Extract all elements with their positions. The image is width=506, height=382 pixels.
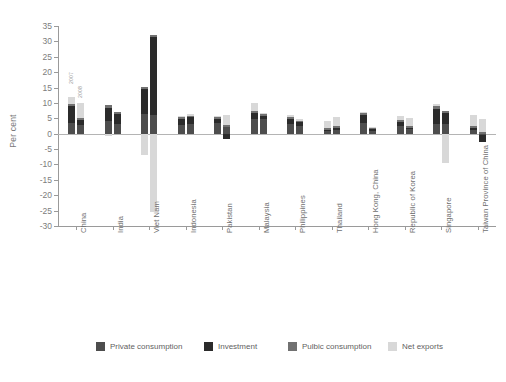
legend-item[interactable]: Private consumption: [96, 342, 182, 351]
bar-segment: [214, 116, 221, 117]
bar-group: [241, 26, 278, 226]
bar-2007: [433, 26, 440, 226]
bar-2007: [251, 26, 258, 226]
x-category-label: Thailand: [335, 203, 344, 233]
bar-2008: [187, 26, 194, 226]
bar-segment: [406, 118, 413, 126]
year-annotation: 2008: [77, 86, 83, 98]
x-tick: [259, 226, 260, 230]
bar-2008: [77, 26, 84, 226]
y-tick-label: 35: [43, 22, 52, 31]
bar-segment: [251, 103, 258, 111]
bar-segment: [68, 123, 75, 133]
bar-2007: [287, 26, 294, 226]
y-tick-label: 10: [43, 99, 52, 108]
bar-group: [131, 26, 168, 226]
bar-segment: [187, 117, 194, 124]
legend-swatch: [288, 342, 297, 351]
bar-segment: [433, 106, 440, 108]
y-tick-label: -15: [40, 176, 52, 185]
y-tick-label: 15: [43, 83, 52, 92]
bar-segment: [260, 119, 267, 133]
bar-2007: [141, 26, 148, 226]
bar-segment: [251, 113, 258, 119]
bar-segment: [442, 124, 449, 133]
bar-segment: [77, 120, 84, 125]
bar-segment: [287, 119, 294, 124]
x-tick: [76, 226, 77, 230]
bar-segment: [114, 114, 121, 124]
x-category-label: Taiwan Province of China: [481, 145, 490, 233]
bar-segment: [433, 124, 440, 134]
bar-segment: [114, 112, 121, 114]
y-tick-label: -5: [44, 145, 52, 154]
bar-segment: [406, 126, 413, 128]
bar-segment: [214, 119, 221, 123]
bar-segment: [369, 131, 376, 134]
x-tick: [478, 226, 479, 230]
bar-segment: [68, 97, 75, 103]
bar-segment: [324, 128, 331, 130]
bar-segment: [433, 109, 440, 124]
bar-segment: [141, 87, 148, 89]
bar-segment: [470, 126, 477, 128]
y-axis-title: Per cent: [8, 96, 18, 166]
bar-segment: [178, 119, 185, 125]
bar-group: [204, 26, 241, 226]
bar-segment: [479, 132, 486, 134]
bar-segment: [141, 134, 148, 155]
bar-segment: [178, 116, 185, 117]
x-tick: [441, 226, 442, 230]
chart-figure: Per cent 35302520151050-5-10-15-20-25-30…: [0, 0, 506, 382]
bar-segment: [397, 126, 404, 134]
bar-segment: [369, 128, 376, 129]
x-category-label: Malaysia: [262, 202, 271, 233]
legend-item[interactable]: Pulbic consumption: [288, 342, 371, 351]
bar-segment: [324, 121, 331, 128]
x-category-label: India: [116, 216, 125, 233]
legend-swatch: [204, 342, 213, 351]
bar-segment: [470, 130, 477, 134]
bar-segment: [433, 104, 440, 107]
bar-segment: [77, 118, 84, 120]
bar-segment: [68, 104, 75, 107]
bar-segment: [187, 114, 194, 116]
bar-segment: [296, 126, 303, 134]
chart-legend: Private consumptionInvestmentPulbic cons…: [0, 342, 506, 358]
bar-segment: [296, 121, 303, 122]
bar-group: 20072008: [58, 26, 95, 226]
x-tick: [405, 226, 406, 230]
bar-segment: [223, 127, 230, 134]
bar-segment: [187, 124, 194, 134]
legend-item[interactable]: Investment: [204, 342, 257, 351]
bar-segment: [324, 130, 331, 131]
bar-segment: [470, 115, 477, 126]
x-category-label: Pakistan: [225, 203, 234, 233]
bar-segment: [333, 126, 340, 128]
bar-group: [168, 26, 205, 226]
bar-2007: [178, 26, 185, 226]
bar-segment: [260, 114, 267, 116]
bar-2008: [333, 26, 340, 226]
x-category-label: Viet Nam: [152, 201, 161, 233]
bar-segment: [105, 105, 112, 107]
bar-segment: [214, 123, 221, 134]
bar-2007: [214, 26, 221, 226]
y-tick-label: -10: [40, 160, 52, 169]
bar-segment: [406, 128, 413, 130]
bar-segment: [406, 129, 413, 133]
legend-item[interactable]: Net exports: [388, 342, 443, 351]
bar-segment: [369, 129, 376, 130]
bar-segment: [141, 89, 148, 114]
bar-segment: [287, 117, 294, 119]
y-tick-label: 30: [43, 37, 52, 46]
bar-segment: [223, 115, 230, 125]
bar-segment: [479, 135, 486, 143]
bar-segment: [442, 111, 449, 113]
bar-segment: [360, 115, 367, 124]
bar-group: [314, 26, 351, 226]
bar-segment: [178, 125, 185, 134]
bar-group: [423, 26, 460, 226]
bar-segment: [77, 103, 84, 118]
bar-segment: [397, 116, 404, 120]
